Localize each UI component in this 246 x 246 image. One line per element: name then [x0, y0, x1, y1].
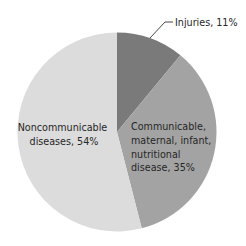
communicable-label-line: nutritional	[131, 149, 180, 160]
communicable-label-line: disease, 35%	[131, 162, 195, 173]
pie-chart: Injuries, 11% Noncommunicable diseases, …	[0, 0, 246, 246]
communicable-label-line: Communicable,	[131, 121, 206, 132]
communicable-label-line: maternal, infant,	[131, 135, 211, 146]
noncommunicable-label-line: diseases, 54%	[30, 136, 99, 147]
noncommunicable-label-line: Noncommunicable	[18, 122, 108, 133]
injuries-label: Injuries, 11%	[175, 17, 238, 28]
injuries-leader-line	[150, 22, 173, 38]
